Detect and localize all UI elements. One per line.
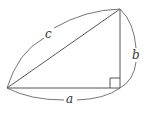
label-b: b (132, 48, 140, 62)
b-arc-bottom (120, 62, 136, 88)
c-arc-left (7, 38, 44, 88)
hypotenuse-line (7, 9, 120, 88)
a-arc-left (7, 88, 64, 100)
c-arc-right (54, 9, 120, 28)
a-arc-right (77, 88, 120, 100)
right-triangle-diagram: c b a (0, 0, 152, 118)
label-a: a (66, 92, 73, 106)
label-c: c (45, 27, 52, 41)
right-angle-marker (110, 78, 120, 88)
b-arc-top (120, 9, 136, 48)
